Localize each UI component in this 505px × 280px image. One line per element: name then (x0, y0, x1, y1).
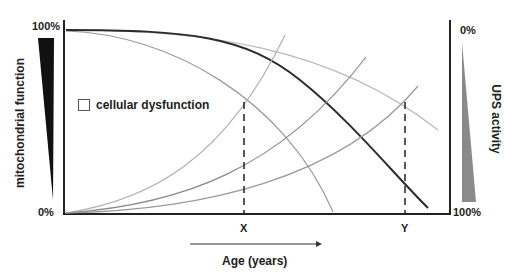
right-axis-title: UPS activity (489, 59, 503, 179)
curve-faint-decline (66, 30, 438, 130)
right-axis-bottom-label: 100% (453, 206, 481, 218)
x-axis-title: Age (years) (222, 254, 287, 268)
legend-label: cellular dysfunction (96, 98, 209, 112)
left-axis-top-label: 100% (32, 20, 60, 32)
x-marker-label-y: Y (401, 222, 408, 234)
chart-plot (0, 0, 505, 280)
ups-wedge (462, 42, 476, 202)
curve-mitochondrial-function (66, 30, 428, 208)
curve-steep-decline (66, 31, 333, 212)
legend-swatch-icon (78, 99, 90, 111)
left-axis-bottom-label: 0% (38, 206, 54, 218)
x-marker-label-x: X (240, 222, 247, 234)
curve-rise-fast (66, 35, 285, 213)
left-axis-title: mitochondrial function (13, 48, 27, 198)
age-arrow-head (316, 241, 322, 247)
right-axis-top-label: 0% (460, 24, 476, 36)
mitochondrial-wedge (38, 38, 54, 200)
legend: cellular dysfunction (78, 98, 209, 112)
curve-rise-medium (66, 57, 366, 213)
